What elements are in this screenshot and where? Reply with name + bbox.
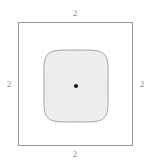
side-label-bottom: 2 bbox=[17, 150, 133, 159]
center-dot bbox=[74, 84, 78, 88]
side-label-right: 2 bbox=[137, 80, 147, 89]
diagram-canvas bbox=[0, 0, 151, 166]
geometry-diagram: 2 2 2 2 bbox=[0, 0, 151, 166]
side-label-top: 2 bbox=[17, 9, 133, 18]
side-label-left: 2 bbox=[4, 80, 14, 89]
